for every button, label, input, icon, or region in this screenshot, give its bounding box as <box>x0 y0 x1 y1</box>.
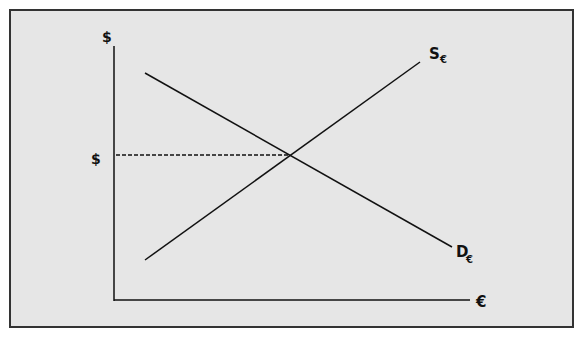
demand-curve <box>145 73 452 247</box>
supply-curve <box>145 62 420 260</box>
supply-subscript: € <box>439 54 447 65</box>
y-axis-label: $ <box>102 29 112 45</box>
supply-label: S <box>429 45 440 63</box>
price-label: $ <box>91 151 101 167</box>
demand-subscript: € <box>465 254 473 265</box>
supply-demand-diagram: $ $ € S € D € <box>0 0 582 339</box>
x-axis-label: € <box>475 293 486 311</box>
